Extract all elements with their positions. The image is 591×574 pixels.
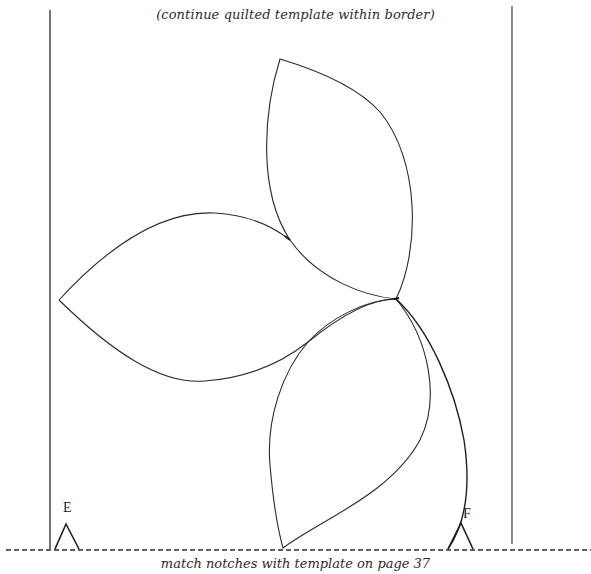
quilt-template-drawing bbox=[0, 0, 591, 574]
bottom-petal bbox=[269, 299, 430, 548]
notch-e-marker bbox=[55, 524, 79, 549]
quilt-template-page: (continue quilted template within border… bbox=[0, 0, 591, 574]
left-petal-lower-edge bbox=[59, 299, 396, 381]
left-petal-upper-edge bbox=[59, 213, 290, 300]
notch-f-marker bbox=[448, 523, 473, 549]
bottom-caption: match notches with template on page 37 bbox=[0, 556, 591, 571]
top-petal bbox=[267, 59, 413, 299]
notch-label-e: E bbox=[63, 500, 72, 516]
stem-curve bbox=[396, 299, 467, 549]
petal-center-junction bbox=[394, 298, 399, 299]
notch-label-f: F bbox=[463, 506, 471, 522]
